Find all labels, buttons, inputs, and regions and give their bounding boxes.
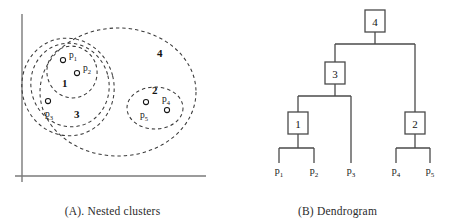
cluster-label-1: 1: [62, 77, 68, 89]
leaf-label-p1: p1: [275, 165, 284, 179]
point-marker-p4: [164, 107, 169, 112]
panel-b-caption: (B) Dendrogram: [225, 205, 450, 217]
dendrogram-leaf-labels: p1 p2 p3 p4 p5: [275, 165, 435, 179]
dendrogram-node-2[interactable]: 2: [405, 112, 425, 134]
cluster-label-4: 4: [157, 47, 163, 59]
cluster-label-3: 3: [74, 108, 80, 120]
point-label-p5: p5: [140, 110, 148, 122]
point-marker-p5: [143, 99, 148, 104]
dendrogram-diagram: 4 3 1 2 p1 p2 p3 p4: [225, 0, 450, 200]
node-1-label: 1: [295, 118, 301, 130]
node-3-label: 3: [332, 68, 338, 80]
leaf-label-p4: p4: [392, 165, 401, 179]
axes-group: [15, 14, 206, 182]
panel-dendrogram: 4 3 1 2 p1 p2 p3 p4: [225, 0, 450, 223]
leaf-label-p3: p3: [347, 165, 356, 179]
cluster-label-2: 2: [152, 84, 158, 96]
point-marker-p1: [60, 57, 65, 62]
leaf-label-p2: p2: [310, 165, 319, 179]
cluster-boundaries: [12, 28, 196, 156]
figure-root: p1 p2 p3 p4 p5 1 3 2 4 (A). Nested clust…: [0, 0, 450, 223]
leaf-label-p5: p5: [426, 165, 435, 179]
dendrogram-links: [279, 32, 430, 163]
point-label-p1: p1: [69, 50, 77, 62]
dendrogram-node-4[interactable]: 4: [365, 10, 385, 32]
point-marker-p2: [74, 70, 79, 75]
point-label-p2: p2: [83, 63, 91, 75]
point-label-p4: p4: [162, 94, 171, 106]
dendrogram-nodes: 4 3 1 2: [288, 10, 425, 134]
dendrogram-node-3[interactable]: 3: [325, 62, 345, 84]
dendrogram-node-1[interactable]: 1: [288, 112, 308, 134]
panel-nested-clusters: p1 p2 p3 p4 p5 1 3 2 4 (A). Nested clust…: [0, 0, 225, 223]
cluster-4-boundary: [40, 28, 196, 156]
node-2-label: 2: [412, 118, 418, 130]
cluster-number-labels: 1 3 2 4: [62, 47, 163, 120]
point-label-p3: p3: [45, 109, 53, 121]
panel-a-caption: (A). Nested clusters: [0, 205, 225, 217]
point-marker-p3: [45, 98, 50, 103]
node-4-label: 4: [372, 16, 378, 28]
nested-clusters-diagram: p1 p2 p3 p4 p5 1 3 2 4: [0, 0, 225, 200]
